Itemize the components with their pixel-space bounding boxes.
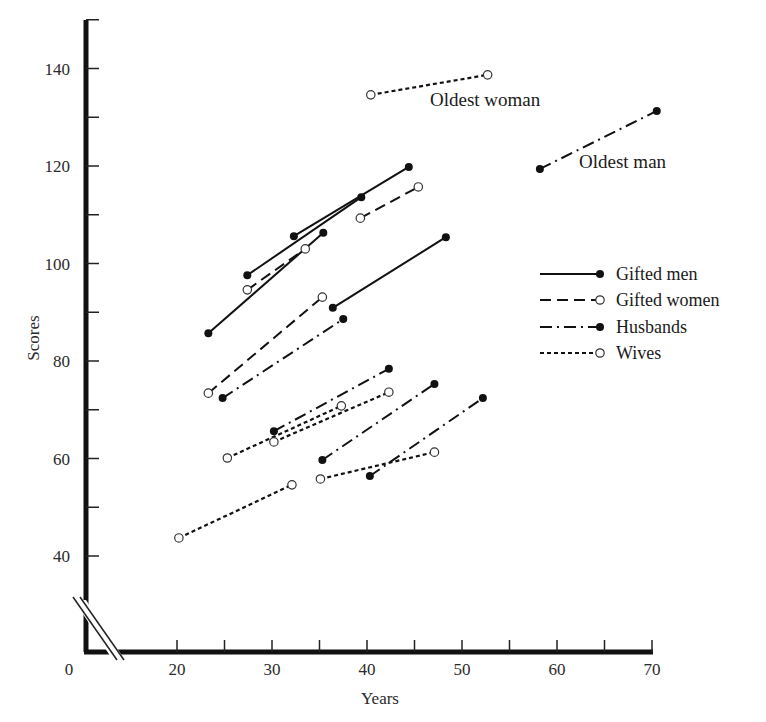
filled-point-marker bbox=[653, 107, 661, 115]
x-tick-label: 50 bbox=[454, 660, 471, 679]
y-tick-label: 140 bbox=[45, 60, 71, 79]
y-tick-label: 100 bbox=[45, 255, 71, 274]
legend-label: Gifted men bbox=[616, 264, 697, 284]
x-tick-label: 30 bbox=[264, 660, 281, 679]
open-point-marker bbox=[243, 286, 251, 294]
annotation-oldest-man: Oldest man bbox=[579, 151, 667, 172]
open-point-marker bbox=[356, 214, 364, 222]
axis-ticks: 406080100120140203040506070 bbox=[45, 20, 661, 679]
filled-point-marker bbox=[319, 229, 327, 237]
legend-item: Gifted men bbox=[540, 264, 697, 284]
x-tick-label: 60 bbox=[549, 660, 566, 679]
legend-item: Gifted women bbox=[540, 290, 719, 310]
open-point-marker bbox=[596, 349, 604, 357]
open-point-marker bbox=[175, 534, 183, 542]
legend-label: Gifted women bbox=[616, 290, 719, 310]
data-segment bbox=[320, 452, 434, 479]
y-axis-label: Scores bbox=[24, 315, 43, 360]
filled-point-marker bbox=[270, 427, 278, 435]
axes bbox=[70, 20, 653, 670]
filled-point-marker bbox=[204, 329, 212, 337]
filled-point-marker bbox=[385, 365, 393, 373]
legend-label: Husbands bbox=[616, 317, 687, 337]
filled-point-marker bbox=[596, 270, 604, 278]
legend-item: Husbands bbox=[540, 317, 687, 337]
annotation-oldest-woman: Oldest woman bbox=[430, 89, 541, 110]
legend: Gifted menGifted womenHusbandsWives bbox=[540, 264, 719, 363]
y-tick-label: 80 bbox=[53, 352, 70, 371]
x-tick-label: 20 bbox=[169, 660, 186, 679]
open-point-marker bbox=[430, 448, 438, 456]
data-segment bbox=[208, 297, 322, 393]
origin-label: 0 bbox=[65, 660, 74, 679]
open-point-marker bbox=[301, 245, 309, 253]
data-segment bbox=[370, 398, 483, 476]
filled-point-marker bbox=[366, 472, 374, 480]
filled-point-marker bbox=[318, 456, 326, 464]
open-point-marker bbox=[223, 454, 231, 462]
legend-label: Wives bbox=[616, 343, 661, 363]
filled-point-marker bbox=[243, 271, 251, 279]
filled-point-marker bbox=[405, 163, 413, 171]
legend-item: Wives bbox=[540, 343, 661, 363]
y-tick-label: 120 bbox=[45, 157, 71, 176]
series-layer bbox=[175, 71, 661, 543]
open-point-marker bbox=[288, 481, 296, 489]
y-tick-label: 40 bbox=[53, 547, 70, 566]
filled-point-marker bbox=[479, 394, 487, 402]
data-segment bbox=[333, 237, 446, 308]
open-point-marker bbox=[337, 402, 345, 410]
filled-point-marker bbox=[339, 315, 347, 323]
x-tick-label: 70 bbox=[644, 660, 661, 679]
data-segment bbox=[227, 406, 341, 458]
open-point-marker bbox=[204, 389, 212, 397]
filled-point-marker bbox=[536, 165, 544, 173]
filled-point-marker bbox=[329, 304, 337, 312]
filled-point-marker bbox=[430, 380, 438, 388]
y-tick-label: 60 bbox=[53, 450, 70, 469]
line-chart: 406080100120140203040506070 Gifted menGi… bbox=[0, 0, 766, 722]
open-point-marker bbox=[270, 438, 278, 446]
x-axis-label: Years bbox=[361, 689, 399, 708]
filled-point-marker bbox=[219, 394, 227, 402]
filled-point-marker bbox=[442, 233, 450, 241]
open-point-marker bbox=[367, 91, 375, 99]
open-point-marker bbox=[316, 475, 324, 483]
data-segment bbox=[223, 319, 344, 398]
filled-point-marker bbox=[596, 323, 604, 331]
data-segment bbox=[179, 485, 292, 538]
open-point-marker bbox=[414, 183, 422, 191]
open-point-marker bbox=[385, 388, 393, 396]
open-point-marker bbox=[596, 296, 604, 304]
open-point-marker bbox=[483, 71, 491, 79]
data-segment bbox=[247, 197, 361, 275]
open-point-marker bbox=[318, 293, 326, 301]
filled-point-marker bbox=[290, 232, 298, 240]
x-tick-label: 40 bbox=[359, 660, 376, 679]
